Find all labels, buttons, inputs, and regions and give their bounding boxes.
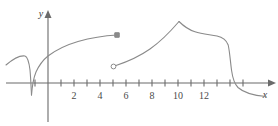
closed-endpoint-marker (115, 33, 120, 38)
curve-right-plateau-branch (179, 22, 266, 97)
curve-left-falling-branch (6, 56, 32, 95)
open-endpoint-marker (111, 64, 116, 69)
xtick-label-8: 8 (150, 90, 155, 101)
y-axis-arrowhead (45, 10, 52, 18)
curve-middle-rising-branch (116, 22, 179, 66)
xtick-label-10: 10 (173, 90, 183, 101)
xtick-label-2: 2 (72, 90, 77, 101)
graph-figure: 2 4 6 8 10 12 x y (0, 0, 278, 126)
xtick-label-12: 12 (199, 90, 209, 101)
x-axis-label: x (262, 89, 268, 100)
xtick-label-6: 6 (124, 90, 129, 101)
xtick-label-4: 4 (98, 90, 103, 101)
y-axis-label: y (38, 8, 44, 19)
graph-canvas: 2 4 6 8 10 12 x y (0, 0, 278, 126)
x-axis-arrowhead (268, 80, 276, 87)
